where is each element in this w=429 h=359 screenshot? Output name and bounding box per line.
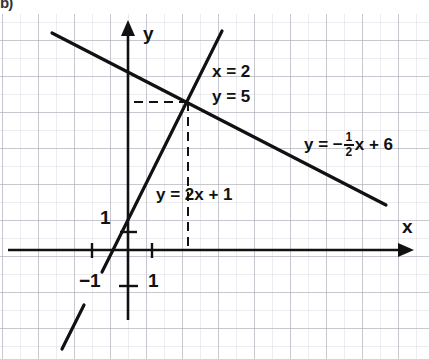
solution-x-value: x = 2 bbox=[212, 62, 250, 82]
solution-y-value: y = 5 bbox=[212, 87, 250, 107]
tick-label-x-one: 1 bbox=[148, 270, 159, 292]
tick-label-y-one: 1 bbox=[100, 207, 111, 229]
axis-label-x: x bbox=[402, 216, 413, 238]
line-label-shallow-prefix: y = − bbox=[304, 135, 343, 154]
coordinate-plot bbox=[0, 0, 429, 359]
line-label-shallow: y = −12x + 6 bbox=[304, 133, 393, 159]
fraction-numerator: 1 bbox=[345, 132, 352, 143]
axis-label-y: y bbox=[143, 23, 154, 45]
fraction-one-half: 12 bbox=[344, 132, 354, 158]
tick-label-x-negative-one: −1 bbox=[79, 270, 101, 292]
figure-canvas: b) bbox=[0, 0, 429, 359]
line-label-shallow-suffix: x + 6 bbox=[355, 135, 393, 154]
line-label-steep: y = 2x + 1 bbox=[156, 185, 233, 205]
fraction-denominator: 2 bbox=[345, 147, 352, 158]
